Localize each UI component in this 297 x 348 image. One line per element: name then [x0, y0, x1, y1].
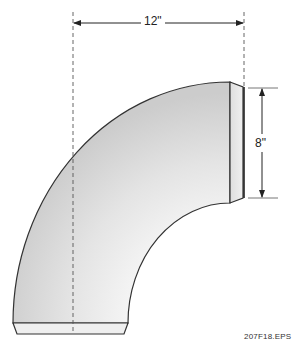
bottom-flange	[13, 323, 128, 334]
elbow-diagram	[0, 0, 297, 348]
elbow-body	[13, 82, 230, 323]
figure-file-label: 207F18.EPS	[244, 332, 291, 341]
right-flange	[230, 82, 243, 203]
width-dimension-label: 12"	[141, 14, 165, 28]
height-dimension-label: 8"	[255, 134, 266, 152]
